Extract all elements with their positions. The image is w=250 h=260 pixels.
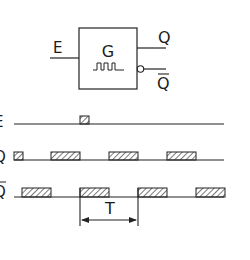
period-label: T xyxy=(104,199,115,218)
arrow-right-icon xyxy=(129,217,137,223)
signal-label-qbar: Q xyxy=(0,183,6,201)
input-label-e: E xyxy=(53,39,62,57)
timing-diagram: G E Q Q E Q Q xyxy=(0,0,250,260)
output-label-qbar: Q xyxy=(157,74,170,93)
pulse xyxy=(14,152,23,160)
pulse xyxy=(22,188,51,197)
signal-label-q: Q xyxy=(0,148,6,166)
pulse xyxy=(109,152,138,160)
pulse xyxy=(51,152,80,160)
signal-q: Q xyxy=(0,148,224,166)
pulse xyxy=(196,188,225,197)
pulse xyxy=(138,188,167,197)
arrow-left-icon xyxy=(81,217,89,223)
signal-e: E xyxy=(0,113,224,131)
pulse xyxy=(80,188,109,197)
output-label-q: Q xyxy=(158,28,171,47)
gate-block: G E Q Q xyxy=(50,28,171,93)
gate-label: G xyxy=(102,42,114,61)
signal-label-e: E xyxy=(0,113,3,131)
pulse xyxy=(167,152,196,160)
inversion-bubble-icon xyxy=(137,66,143,72)
pulse xyxy=(80,116,89,124)
